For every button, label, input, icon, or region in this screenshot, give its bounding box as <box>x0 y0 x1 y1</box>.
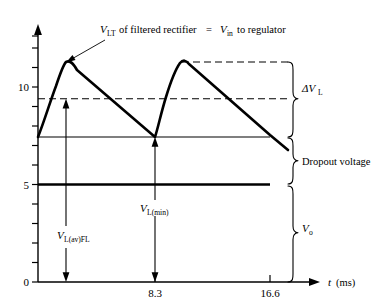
vlmin-label-subscript: L(min) <box>147 208 169 217</box>
y-tick-label-0: 0 <box>24 276 30 288</box>
vlt-subscript: LT <box>107 29 116 38</box>
y-tick-label-10: 10 <box>18 81 30 93</box>
vlavfl-arrowhead-up <box>63 99 70 109</box>
y-axis-ticks <box>32 36 38 282</box>
vlavfl-arrowhead-down <box>63 272 70 282</box>
x-tick-label-8-3: 8.3 <box>148 287 162 299</box>
y-tick-label-5: 5 <box>24 179 30 191</box>
x-axis-ticks <box>155 275 270 282</box>
vlavfl-measure: V L(av)FL <box>57 99 90 282</box>
axes-group <box>34 24 320 286</box>
vo-brace <box>288 186 298 282</box>
dropout-brace-group: Dropout voltage <box>288 138 371 184</box>
x-axis-title: t (ms) <box>328 276 356 289</box>
vlmin-measure: V L(min) <box>140 137 169 282</box>
vo-subscript: o <box>309 228 313 237</box>
top-annotation-text: V LT of filtered rectifier = V in to reg… <box>100 23 286 38</box>
annotation-leader <box>66 40 105 63</box>
y-axis-arrowhead <box>34 24 42 35</box>
delta-vl-brace-group: ΔV L <box>288 62 323 137</box>
dropout-brace <box>288 138 298 184</box>
x-tick-label-16-6: 16.6 <box>260 287 280 299</box>
vin-subscript: in <box>227 29 233 38</box>
annotation-equals: = <box>206 24 212 35</box>
annotation-middle-text: of filtered rectifier <box>119 24 197 35</box>
delta-vl-subscript: L <box>318 88 323 97</box>
x-axis-title-unit: (ms) <box>336 277 356 289</box>
leader-line <box>70 40 105 60</box>
vlmin-arrowhead-down <box>152 272 159 282</box>
delta-vl-brace <box>288 62 298 137</box>
vlavfl-label-subscript: L(av)FL <box>64 235 90 244</box>
x-axis-title-symbol: t <box>328 276 332 288</box>
dropout-label: Dropout voltage <box>302 156 371 167</box>
figure-svg: 10 5 0 8.3 16.6 t (ms) <box>0 0 377 307</box>
x-axis-arrowhead <box>309 278 320 286</box>
delta-vl-symbol: ΔV <box>301 82 316 94</box>
vlmin-arrowhead-up <box>152 137 159 147</box>
vo-brace-group: V o <box>288 186 313 282</box>
ripple-voltage-figure: 10 5 0 8.3 16.6 t (ms) <box>0 0 377 307</box>
annotation-tail-text: to regulator <box>237 24 286 35</box>
